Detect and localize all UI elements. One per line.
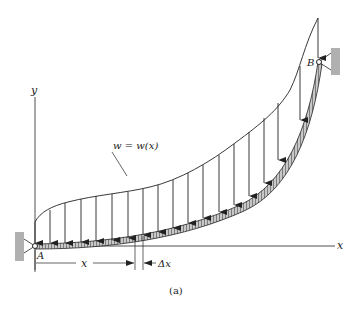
right-support-wall xyxy=(331,48,340,75)
point-b-label: B xyxy=(306,57,314,68)
right-support-strut-top xyxy=(320,53,331,61)
distance-label: x xyxy=(81,257,88,270)
x-axis-label: x xyxy=(337,239,344,252)
load-curve xyxy=(35,18,318,222)
y-axis-label: y xyxy=(30,84,38,97)
pin-b-icon xyxy=(317,60,322,65)
pin-a-icon xyxy=(33,244,38,249)
beam-diagram: y x A B w = w(x) x Δx (a) xyxy=(0,0,354,313)
left-support-wall xyxy=(15,232,24,261)
load-function-label: w = w(x) xyxy=(113,140,158,151)
beam xyxy=(35,62,322,249)
figure-caption: (a) xyxy=(169,285,183,296)
distributed-load-arrows xyxy=(35,18,318,243)
point-a-label: A xyxy=(36,250,44,261)
increment-label: Δx xyxy=(157,258,171,269)
load-label-leader xyxy=(112,152,127,176)
